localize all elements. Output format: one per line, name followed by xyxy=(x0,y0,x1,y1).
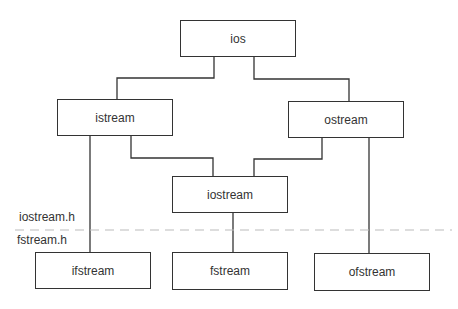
node-istream: istream xyxy=(57,99,173,136)
node-ostream: ostream xyxy=(288,101,404,138)
node-label: ostream xyxy=(324,113,367,127)
node-label: istream xyxy=(95,111,134,125)
node-label: iostream xyxy=(207,188,253,202)
header-label-fstream-h: fstream.h xyxy=(17,233,67,247)
node-ifstream: ifstream xyxy=(35,252,151,289)
node-label: ifstream xyxy=(72,264,115,278)
node-label: ios xyxy=(230,32,245,46)
header-label-iostream-h: iostream.h xyxy=(19,210,75,224)
node-iostream: iostream xyxy=(172,176,288,213)
node-fstream: fstream xyxy=(172,252,288,290)
node-label: ofstream xyxy=(349,265,396,279)
node-ofstream: ofstream xyxy=(314,253,430,291)
node-ios: ios xyxy=(180,20,296,57)
node-label: fstream xyxy=(210,264,250,278)
